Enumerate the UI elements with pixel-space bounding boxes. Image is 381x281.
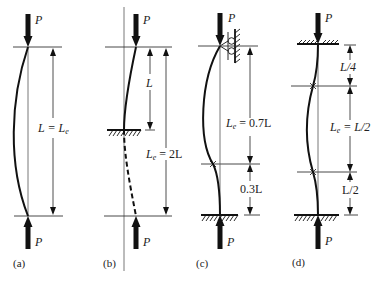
arrowhead-down-icon (347, 207, 353, 215)
load-label-top: P (34, 13, 43, 27)
arrowhead-up-icon (347, 86, 353, 94)
arrowhead-up-icon (347, 172, 353, 180)
arrowhead-down-icon (347, 78, 353, 86)
dimension-label-effective-length: L = Le (37, 121, 69, 136)
load-arrow-top (24, 14, 33, 47)
panel-d: P L/4 Le = L/2 (291, 11, 370, 269)
dimension-label-effective-length: Le = L/2 (329, 120, 370, 135)
arrowhead-up-icon (163, 48, 169, 56)
arrowhead-down-icon (50, 207, 56, 215)
load-arrow-bottom (24, 216, 33, 249)
dimension-label-0-3L: 0.3L (240, 182, 262, 196)
buckled-shape (14, 47, 28, 216)
dimension-label-L-4: L/4 (339, 60, 356, 74)
panel-caption: (b) (103, 257, 116, 270)
arrowhead-up-icon (247, 164, 253, 172)
load-arrow-bottom (132, 216, 141, 249)
load-arrow-top (132, 14, 141, 47)
arrowhead-up-icon (347, 45, 353, 53)
panel-caption: (d) (292, 256, 305, 269)
load-label-bottom: P (34, 235, 43, 249)
buckled-shape (307, 44, 318, 215)
arrowhead-down-icon (163, 207, 169, 215)
load-label-top: P (142, 13, 151, 27)
arrowhead-down-icon (247, 156, 253, 164)
load-arrow-bottom (216, 215, 225, 249)
mirrored-buckled-shape-dashed (124, 130, 136, 216)
arrowhead-up-icon (147, 48, 153, 56)
buckled-shape (124, 47, 136, 130)
load-label-bottom: P (324, 234, 333, 248)
load-label-bottom: P (226, 235, 235, 249)
dimension-label-L: L (145, 76, 153, 90)
load-label-top: P (324, 11, 333, 25)
arrowhead-down-icon (347, 164, 353, 172)
panel-caption: (c) (196, 257, 209, 270)
dimension-label-effective-length: Le = 2L (145, 147, 182, 162)
panel-c: P Le = 0.7L (196, 11, 271, 270)
panel-caption: (a) (13, 257, 26, 270)
arrowhead-up-icon (247, 47, 253, 55)
arrowhead-down-icon (147, 122, 153, 130)
arrowhead-up-icon (50, 48, 56, 56)
dimension-label-effective-length: Le = 0.7L (225, 116, 271, 131)
arrowhead-down-icon (247, 207, 253, 215)
panel-a: P L = Le P (a) (13, 13, 69, 270)
dimension-label-L-2: L/2 (342, 183, 359, 197)
buckled-shape (203, 46, 220, 215)
load-label-bottom: P (142, 235, 151, 249)
load-arrow-top (216, 13, 225, 46)
load-label-top: P (227, 11, 236, 25)
load-arrow-top (314, 13, 323, 44)
panel-b: P L Le = 2L P (b) (103, 7, 182, 271)
